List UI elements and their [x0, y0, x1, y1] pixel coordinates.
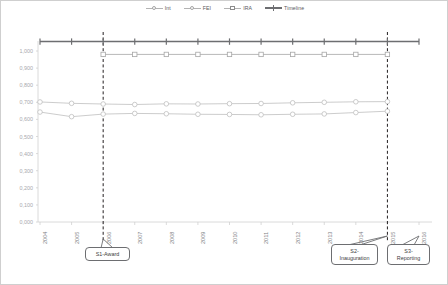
data-point-int: [290, 101, 295, 106]
annotation-s1-label: S1-Award: [96, 251, 120, 258]
data-point-fei: [354, 110, 359, 115]
data-point-ira: [196, 52, 200, 56]
x-tick-label: 2012: [295, 232, 301, 244]
data-point-ira: [322, 52, 326, 56]
y-tick-label: 0,000: [7, 219, 33, 225]
annotation-s2-label-line2: Inauguration: [340, 255, 370, 262]
data-point-fei: [132, 111, 137, 116]
data-point-int: [196, 102, 201, 107]
data-point-ira: [259, 52, 263, 56]
x-tick-label: 2007: [137, 232, 143, 244]
x-tick-label: 2013: [327, 232, 333, 244]
data-point-int: [227, 101, 232, 106]
y-tick-label: 0,200: [7, 185, 33, 191]
y-tick-label: 0,100: [7, 202, 33, 208]
data-point-fei: [38, 110, 43, 115]
y-tick-label: 0,800: [7, 82, 33, 88]
data-point-int: [132, 102, 137, 107]
data-point-fei: [164, 111, 169, 116]
data-point-int: [385, 99, 390, 104]
annotation-callout-s1[interactable]: S1-Award: [85, 247, 130, 261]
y-tick-label: 1,000: [7, 48, 33, 54]
data-point-fei: [290, 112, 295, 117]
y-tick-label: 0,500: [7, 134, 33, 140]
x-tick-label: 2010: [232, 232, 238, 244]
data-point-int: [354, 99, 359, 104]
data-point-int: [259, 101, 264, 106]
data-point-int: [69, 101, 74, 106]
data-point-fei: [196, 112, 201, 117]
y-tick-label: 0,600: [7, 116, 33, 122]
data-point-fei: [385, 109, 390, 114]
x-tick-label: 2011: [263, 232, 269, 244]
data-point-ira: [101, 52, 105, 56]
x-tick-label: 2005: [74, 232, 80, 244]
data-point-fei: [69, 114, 74, 119]
data-point-ira: [385, 52, 389, 56]
x-tick-label: 2014: [358, 232, 364, 244]
data-point-int: [38, 100, 43, 105]
x-tick-label: 2015: [390, 232, 396, 244]
y-tick-label: 0,900: [7, 65, 33, 71]
annotation-callout-s2[interactable]: S2- Inauguration: [331, 244, 378, 265]
data-point-fei: [322, 112, 327, 117]
data-point-ira: [133, 52, 137, 56]
y-tick-label: 0,400: [7, 151, 33, 157]
data-point-int: [101, 102, 106, 107]
x-tick-label: 2006: [106, 232, 112, 244]
data-point-int: [322, 100, 327, 105]
plot-area: [1, 1, 448, 285]
series-line-fei: [40, 111, 387, 116]
y-tick-label: 0,300: [7, 168, 33, 174]
data-point-ira: [354, 52, 358, 56]
x-tick-label: 2008: [169, 232, 175, 244]
chart-container: Int FEI IRA Timeline 1,0000,9000,8000,70…: [0, 0, 448, 285]
data-point-fei: [101, 112, 106, 117]
data-point-ira: [227, 52, 231, 56]
data-point-fei: [227, 112, 232, 117]
series-line-int: [40, 102, 387, 105]
data-point-ira: [290, 52, 294, 56]
data-point-int: [164, 102, 169, 107]
x-tick-label: 2004: [42, 232, 48, 244]
y-tick-label: 0,700: [7, 99, 33, 105]
data-point-ira: [164, 52, 168, 56]
annotation-callout-s3[interactable]: S3- Reporting: [387, 244, 430, 265]
annotation-s2-label-line1: S2-: [350, 248, 358, 255]
x-tick-label: 2009: [200, 232, 206, 244]
data-point-fei: [259, 112, 264, 117]
x-tick-label: 2016: [421, 232, 427, 244]
annotation-s3-label-line2: Reporting: [397, 255, 420, 262]
annotation-s3-label-line1: S3-: [404, 248, 412, 255]
